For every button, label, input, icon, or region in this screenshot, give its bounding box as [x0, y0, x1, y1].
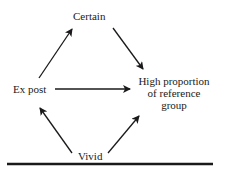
node-target-line-3: group [134, 99, 214, 111]
arrow-vivid-to-expost [40, 108, 72, 153]
node-target-line-1: High proportion [134, 75, 214, 87]
node-vivid: Vivid [78, 150, 102, 162]
node-target-line-2: of reference [134, 87, 214, 99]
node-ex-post: Ex post [13, 83, 46, 95]
arrow-vivid-to-target [108, 116, 139, 153]
node-certain: Certain [73, 10, 105, 22]
arrow-certain-to-target [113, 28, 143, 69]
node-high-proportion-of-reference-group: High proportion of reference group [134, 75, 214, 111]
arrow-expost-to-certain [39, 29, 72, 78]
